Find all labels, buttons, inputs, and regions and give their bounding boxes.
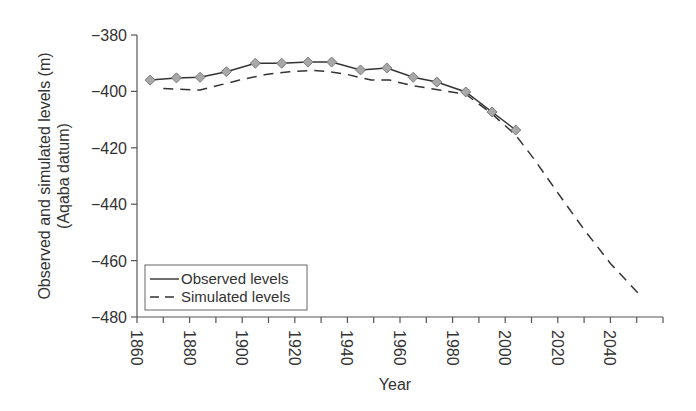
simulated-levels-line [163, 70, 642, 297]
x-tick-label: 1860 [128, 330, 145, 366]
x-tick-label: 2000 [496, 330, 513, 366]
y-tick-label: −420 [91, 140, 127, 157]
y-axis-title-line1: Observed and simulated levels (m) [36, 52, 53, 299]
diamond-marker-icon [145, 75, 155, 85]
diamond-marker-icon [382, 63, 392, 73]
x-tick-label: 2040 [601, 330, 618, 366]
diamond-marker-icon [195, 72, 205, 82]
y-tick-label: −380 [91, 27, 127, 44]
x-tick-label: 2020 [549, 330, 566, 366]
y-tick-label: −440 [91, 196, 127, 213]
x-tick-label: 1960 [391, 330, 408, 366]
y-axis-title-line2: (Aqaba datum) [55, 123, 72, 229]
legend-item-simulated: Simulated levels [181, 288, 290, 305]
x-tick-label: 1940 [338, 330, 355, 366]
diamond-marker-icon [277, 58, 287, 68]
diamond-marker-icon [408, 72, 418, 82]
x-tick-label: 1980 [444, 330, 461, 366]
y-tick-label: −400 [91, 83, 127, 100]
diamond-marker-icon [303, 57, 313, 67]
x-tick-label: 1900 [233, 330, 250, 366]
x-axis: 1860188019001920194019601980200020202040 [128, 317, 663, 366]
y-axis: −380−400−420−440−460−480 [91, 27, 137, 326]
diamond-marker-icon [327, 57, 337, 67]
chart: −380−400−420−440−460−480 186018801900192… [0, 0, 696, 411]
y-tick-label: −480 [91, 309, 127, 326]
x-axis-title: Year [379, 376, 412, 393]
y-axis-title: Observed and simulated levels (m) (Aqaba… [36, 52, 72, 299]
legend: Observed levels Simulated levels [145, 265, 307, 310]
diamond-marker-icon [221, 67, 231, 77]
diamond-marker-icon [250, 58, 260, 68]
diamond-marker-icon [356, 65, 366, 75]
x-tick-label: 1880 [181, 330, 198, 366]
y-tick-label: −460 [91, 253, 127, 270]
diamond-marker-icon [171, 73, 181, 83]
x-tick-label: 1920 [286, 330, 303, 366]
legend-item-observed: Observed levels [181, 270, 289, 287]
diamond-marker-icon [432, 77, 442, 87]
series-layer [145, 57, 642, 297]
